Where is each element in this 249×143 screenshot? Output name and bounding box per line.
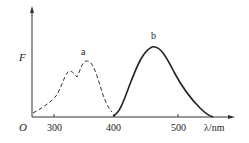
series-a-curve [33, 61, 112, 113]
x-tick-label-500: 500 [171, 122, 186, 133]
series-b-curve [113, 47, 213, 117]
series-b-label: b [151, 30, 156, 41]
y-axis-label: F [18, 51, 26, 63]
x-tick-label-300: 300 [47, 122, 62, 133]
spectrum-chart: F O 300 400 500 λ/nm a b [0, 0, 249, 143]
x-axis-arrow-icon [228, 115, 235, 119]
x-axis-label: λ/nm [204, 122, 225, 133]
series-a-label: a [81, 46, 86, 57]
axes [30, 6, 235, 119]
origin-label: O [19, 121, 27, 133]
x-tick-label-400: 400 [106, 122, 121, 133]
y-axis-arrow-icon [30, 6, 34, 13]
